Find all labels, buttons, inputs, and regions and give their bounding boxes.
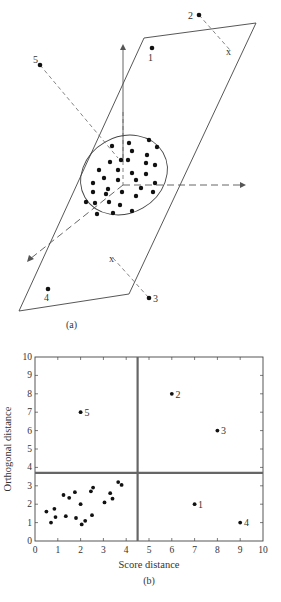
- svg-text:6: 6: [169, 545, 174, 555]
- svg-text:0: 0: [27, 536, 32, 546]
- point-1: 1: [193, 499, 203, 510]
- confidence-ellipse: [66, 120, 182, 231]
- svg-text:5: 5: [27, 444, 32, 454]
- svg-text:6: 6: [27, 426, 32, 436]
- y-tick-labels: 0 1 2 3 4 5 6 7 8 9 10: [23, 352, 33, 546]
- svg-text:1: 1: [55, 545, 60, 555]
- arrow-right-icon: [240, 182, 246, 188]
- outlier-2: 2: [188, 10, 201, 21]
- caption-b: (b): [143, 575, 155, 587]
- svg-text:10: 10: [23, 352, 33, 362]
- svg-text:1: 1: [27, 518, 32, 528]
- y-ticks: [35, 375, 263, 522]
- svg-text:3: 3: [153, 293, 158, 304]
- svg-text:4: 4: [44, 292, 49, 303]
- svg-text:8: 8: [27, 389, 32, 399]
- y-axis-label: Orthogonal distance: [2, 406, 13, 491]
- svg-text:8: 8: [215, 545, 220, 555]
- projection-mark-2: x: [226, 46, 231, 57]
- svg-text:3: 3: [221, 425, 226, 436]
- svg-text:7: 7: [192, 545, 197, 555]
- axis-downleft: [30, 185, 123, 259]
- svg-text:5: 5: [33, 54, 38, 65]
- x-ticks: [58, 357, 240, 541]
- svg-text:9: 9: [27, 370, 32, 380]
- outlier-3: 3: [147, 293, 158, 304]
- point-3: 3: [216, 425, 227, 436]
- outlier-1: 1: [148, 46, 154, 63]
- projection-mark-3: x: [109, 253, 114, 264]
- svg-text:2: 2: [78, 545, 83, 555]
- panel-a: x x 1 2: [19, 10, 256, 331]
- svg-text:2: 2: [27, 499, 32, 509]
- arrow-downleft-icon: [27, 255, 34, 262]
- x-axis-label: Score distance: [119, 559, 180, 570]
- panel-b: 0 1 2 3 4 5 6 7 8 9 10 0 1 2 3 4 5 6 7 8…: [2, 352, 268, 587]
- projection-line-2: [199, 15, 230, 50]
- svg-text:2: 2: [188, 10, 193, 21]
- svg-text:5: 5: [147, 545, 152, 555]
- caption-a: (a): [66, 319, 77, 331]
- svg-text:3: 3: [27, 481, 32, 491]
- svg-text:4: 4: [124, 545, 129, 555]
- figure: x x 1 2: [0, 0, 281, 602]
- svg-text:9: 9: [238, 545, 243, 555]
- svg-text:10: 10: [258, 545, 268, 555]
- svg-text:1: 1: [148, 52, 153, 63]
- regular-points: [45, 480, 124, 526]
- svg-text:2: 2: [176, 389, 181, 400]
- point-4: 4: [238, 517, 249, 528]
- svg-text:5: 5: [85, 407, 90, 418]
- svg-text:3: 3: [101, 545, 106, 555]
- point-2: 2: [170, 389, 181, 400]
- point-5: 5: [79, 407, 90, 418]
- arrow-up-icon: [120, 44, 126, 50]
- pca-plane: [19, 23, 256, 311]
- plot-frame: [35, 357, 263, 541]
- svg-text:4: 4: [27, 462, 32, 472]
- projection-line-5: [40, 65, 118, 158]
- svg-text:0: 0: [33, 545, 38, 555]
- projection-line-3: [113, 258, 149, 298]
- svg-text:4: 4: [244, 517, 249, 528]
- svg-text:7: 7: [27, 407, 32, 417]
- x-tick-labels: 0 1 2 3 4 5 6 7 8 9 10: [33, 545, 268, 555]
- svg-text:1: 1: [198, 499, 203, 510]
- outlier-5: 5: [33, 54, 42, 67]
- outlier-4: 4: [44, 287, 50, 303]
